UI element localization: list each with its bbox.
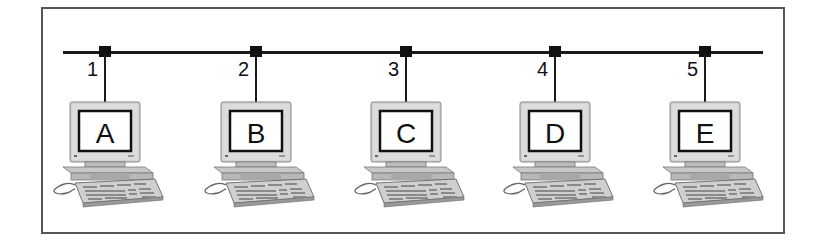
drop-cable	[554, 54, 556, 102]
drop-cable	[104, 54, 106, 102]
computer-label: E	[696, 118, 715, 149]
computer-icon: C	[346, 101, 466, 226]
network-node-d: 4 D	[495, 0, 635, 243]
port-number-label: 4	[537, 59, 548, 79]
port-number-label: 5	[687, 59, 698, 79]
network-node-c: 3 C	[346, 0, 486, 243]
network-node-a: 1 A	[45, 0, 185, 243]
network-node-b: 2 B	[196, 0, 336, 243]
network-node-e: 5 E	[645, 0, 785, 243]
computer-label: D	[545, 118, 565, 149]
drop-cable	[704, 54, 706, 102]
computer-label: C	[396, 118, 416, 149]
drop-cable	[255, 54, 257, 102]
computer-icon: D	[495, 101, 615, 226]
port-number-label: 2	[238, 59, 249, 79]
port-number-label: 1	[87, 59, 98, 79]
computer-icon: B	[196, 101, 316, 226]
computer-icon: E	[645, 101, 765, 226]
computer-label: B	[247, 118, 266, 149]
drop-cable	[405, 54, 407, 102]
computer-label: A	[96, 118, 115, 149]
computer-icon: A	[45, 101, 165, 226]
port-number-label: 3	[388, 59, 399, 79]
